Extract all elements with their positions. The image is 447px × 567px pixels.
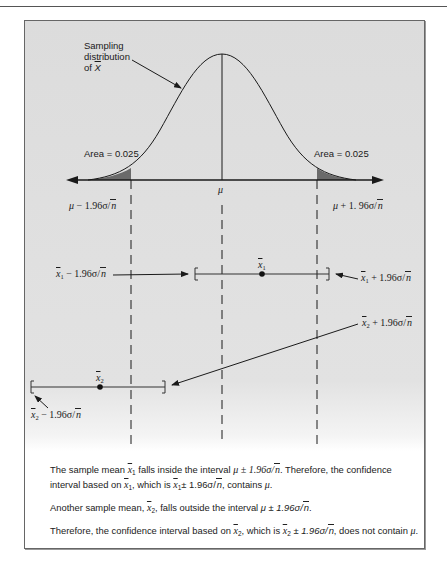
sample-mean-1-dot — [259, 271, 265, 277]
lower-critical-label: μ − 1.96σ/n — [69, 200, 116, 211]
interval-2-upper-label: x2 + 1.96σ/n — [362, 317, 412, 329]
curve-label-arrow — [132, 60, 181, 88]
upper-critical-label: μ + 1. 96σ/n — [333, 200, 383, 211]
interval-1 — [113, 268, 358, 280]
sample-mean-2-label: x2 — [96, 372, 104, 384]
sample-mean-1-label: x1 — [258, 259, 266, 271]
right-tail-area — [317, 168, 356, 180]
caption-paragraph-3: Therefore, the confidence interval based… — [50, 525, 420, 540]
left-tail-area — [88, 168, 131, 180]
caption-paragraph-2: Another sample mean, x2, falls outside t… — [50, 502, 420, 517]
area-left-label: Area = 0.025 — [84, 148, 139, 159]
interval-2-lower-label: x2 − 1.96σ/n — [31, 409, 81, 421]
sample-mean-2-dot — [97, 384, 103, 390]
curve-label: Sampling distribution of X — [84, 40, 130, 73]
interval-2 — [31, 324, 358, 408]
mu-label: μ — [218, 184, 223, 195]
area-right-label: Area = 0.025 — [314, 148, 369, 159]
figure-caption: The sample mean x1 falls inside the inte… — [50, 464, 420, 548]
caption-paragraph-1: The sample mean x1 falls inside the inte… — [50, 464, 420, 494]
interval-1-lower-label: x1 − 1.96σ/n — [56, 268, 106, 280]
interval-1-upper-label: x1 + 1.96σ/n — [361, 272, 411, 284]
